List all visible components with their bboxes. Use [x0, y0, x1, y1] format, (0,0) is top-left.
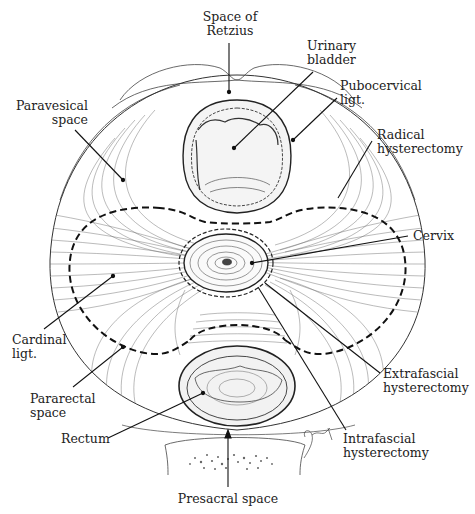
label-cardinal-ligt: Cardinal ligt.	[12, 333, 82, 361]
label-pubocervical-ligt: Pubocervical ligt.	[340, 79, 440, 107]
urinary-bladder-shape	[183, 100, 291, 213]
leader-pubocervical-ligt	[293, 98, 337, 140]
label-cervix: Cervix	[413, 229, 473, 243]
leader-cervix	[252, 236, 408, 263]
label-radical-hysterectomy: Radical hysterectomy	[377, 128, 475, 156]
label-urinary-bladder: Urinary bladder	[307, 39, 377, 67]
sacrum-shape	[122, 425, 355, 475]
sacral-stipple	[189, 454, 273, 470]
label-pararectal-space: Pararectal space	[30, 392, 110, 420]
label-rectum: Rectum	[61, 432, 121, 446]
leader-extrafascial-hysterectomy	[265, 283, 380, 373]
label-paravesical-space: Paravesical space	[14, 99, 88, 127]
label-extrafascial-hysterectomy: Extrafascial hysterectomy	[383, 367, 475, 395]
rectum-shape	[179, 346, 295, 426]
label-presacral-space: Presacral space	[172, 492, 284, 506]
cervix-shape	[179, 229, 273, 297]
label-intrafascial-hysterectomy: Intrafascial hysterectomy	[343, 432, 443, 460]
arrowhead-presacral	[225, 430, 231, 438]
leader-radical-hysterectomy	[338, 141, 372, 198]
label-space-of-retzius: Space of Retzius	[197, 10, 263, 38]
